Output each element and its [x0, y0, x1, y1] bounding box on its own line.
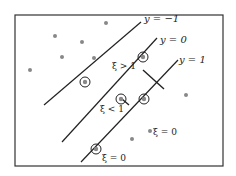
frame — [15, 15, 223, 166]
label-xi-eq0-right: ξ = 0 — [153, 127, 177, 137]
label-xi-eq0-bottom: ξ = 0 — [102, 153, 126, 163]
label-xi-lt1: ξ < 1 — [100, 104, 124, 114]
label-line-neg: y = −1 — [143, 13, 179, 24]
label-line-pos: y = 1 — [178, 54, 206, 65]
svm-slack-diagram: y = −1 y = 0 y = 1 ξ > 1 ξ < 1 ξ = 0 ξ =… — [0, 0, 236, 176]
label-line-zero: y = 0 — [159, 34, 187, 45]
label-xi-gt1: ξ > 1 — [112, 61, 136, 71]
